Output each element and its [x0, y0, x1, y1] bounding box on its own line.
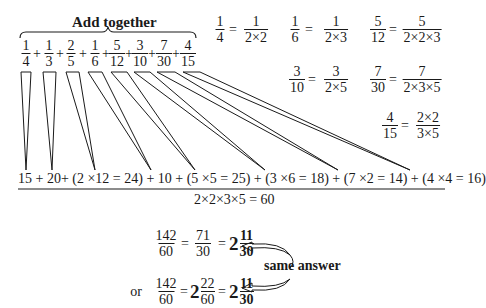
fraction: 2×23×5	[416, 110, 440, 141]
wedge-4	[88, 72, 151, 170]
equals-sign: =	[389, 22, 397, 37]
plus-sign: +	[33, 46, 41, 61]
equals-sign: =	[308, 72, 316, 87]
equals-sign: =	[181, 236, 189, 251]
fraction: 12×3	[324, 14, 348, 45]
fraction: 730	[370, 64, 386, 95]
fraction: 14	[22, 38, 31, 69]
fraction: 14260	[155, 276, 178, 307]
fraction: 310	[289, 64, 305, 95]
fraction: 310	[132, 38, 148, 69]
equals-sign: =	[389, 72, 397, 87]
fraction: 14	[216, 14, 225, 45]
wedge-3	[66, 72, 95, 170]
wedge-2	[43, 72, 56, 170]
fraction: 32×5	[324, 64, 348, 95]
plus-sign: +	[56, 46, 64, 61]
equals-sign: =	[218, 236, 226, 251]
plus-sign: +	[148, 46, 156, 61]
fraction: 415	[180, 38, 196, 69]
equals-sign: =	[218, 284, 226, 299]
plus-sign: +	[172, 46, 180, 61]
fraction: 52×2×3	[403, 14, 442, 45]
fraction: 16	[91, 38, 100, 69]
brace	[20, 27, 196, 38]
mixed-number: 2 1130	[229, 228, 254, 259]
mixed-number: 2 1130	[229, 276, 254, 307]
fraction: 25	[67, 38, 76, 69]
equals-sign: =	[180, 284, 188, 299]
fraction: 72×3×5	[403, 64, 442, 95]
fraction: 730	[156, 38, 172, 69]
numerator-expression: 15 + 20+ (2 ×12 = 24) + 10 + (5 ×5 = 25)…	[18, 171, 486, 187]
fraction: 7130	[195, 228, 211, 259]
mixed-number: 2 2260	[190, 276, 215, 307]
denominator-expression: 2×2×3×5 = 60	[194, 192, 275, 208]
fraction: 13	[45, 38, 54, 69]
equals-sign: =	[305, 22, 313, 37]
same-answer-label: same answer	[264, 258, 341, 274]
or-label: or	[130, 284, 142, 299]
fraction: 14260	[155, 228, 178, 259]
equals-sign: =	[229, 22, 237, 37]
plus-sign: +	[79, 46, 87, 61]
fraction: 16	[291, 14, 300, 45]
fraction: 12×2	[244, 14, 268, 45]
fraction: 415	[382, 110, 398, 141]
fraction: 512	[109, 38, 125, 69]
wedge-1	[21, 72, 31, 170]
fraction: 512	[370, 14, 386, 45]
equals-sign: =	[401, 118, 409, 133]
